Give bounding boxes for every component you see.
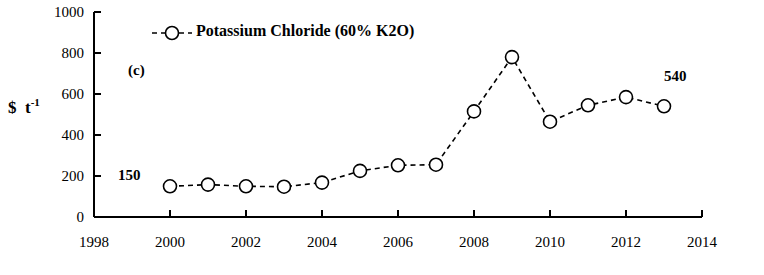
series-line (170, 57, 664, 187)
data-point-marker (354, 164, 367, 177)
data-point-marker (240, 180, 253, 193)
data-point-marker (278, 180, 291, 193)
data-point-marker (582, 99, 595, 112)
data-point-marker (658, 100, 671, 113)
data-point-marker (544, 115, 557, 128)
data-point-marker (164, 180, 177, 193)
legend-sample (152, 27, 192, 40)
y-axis-ticks (94, 12, 101, 217)
data-point-marker (468, 105, 481, 118)
chart-figure: $ t-1 (c) Potassium Chloride (60% K2O) 1… (0, 0, 764, 275)
data-point-marker (316, 176, 329, 189)
data-point-marker (392, 159, 405, 172)
x-axis-ticks (94, 210, 702, 217)
data-point-marker (506, 51, 519, 64)
axis-lines (94, 12, 702, 217)
data-point-marker (620, 91, 633, 104)
series-potassium-chloride (164, 51, 671, 194)
data-point-marker (202, 178, 215, 191)
data-point-marker (430, 158, 443, 171)
plot-canvas (0, 0, 764, 275)
